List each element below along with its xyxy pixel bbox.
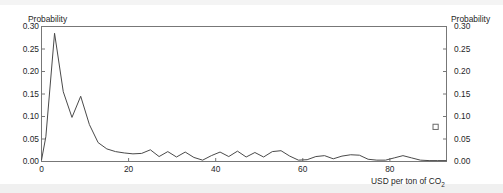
y-tick-label-right: 0.20 bbox=[454, 66, 470, 76]
plot-area bbox=[0, 0, 503, 193]
y-tick-label-left: 0.20 bbox=[23, 66, 39, 76]
x-tick-label: 60 bbox=[288, 164, 318, 174]
y-tick-label-right: 0.10 bbox=[454, 111, 470, 121]
y-tick-label-left: 0.10 bbox=[23, 111, 39, 121]
y-tick-label-right: 0.00 bbox=[454, 156, 470, 166]
plot-frame bbox=[42, 27, 447, 162]
y-tick-label-left: 0.15 bbox=[23, 89, 39, 99]
y-tick-label-right: 0.30 bbox=[454, 21, 470, 31]
x-tick-label: 40 bbox=[201, 164, 231, 174]
x-tick-label: 0 bbox=[27, 164, 57, 174]
y-tick-label-left: 0.05 bbox=[23, 134, 39, 144]
y-tick-label-left: 0.25 bbox=[23, 44, 39, 54]
open-square-marker bbox=[433, 124, 438, 129]
y-tick-label-right: 0.05 bbox=[454, 134, 470, 144]
y-tick-label-right: 0.15 bbox=[454, 89, 470, 99]
x-tick-label: 20 bbox=[114, 164, 144, 174]
data-series-line bbox=[42, 33, 447, 160]
x-tick-label: 80 bbox=[375, 164, 405, 174]
y-tick-label-left: 0.30 bbox=[23, 21, 39, 31]
y-tick-label-right: 0.25 bbox=[454, 44, 470, 54]
chart-figure: Probability Probability USD per ton of C… bbox=[0, 0, 503, 193]
